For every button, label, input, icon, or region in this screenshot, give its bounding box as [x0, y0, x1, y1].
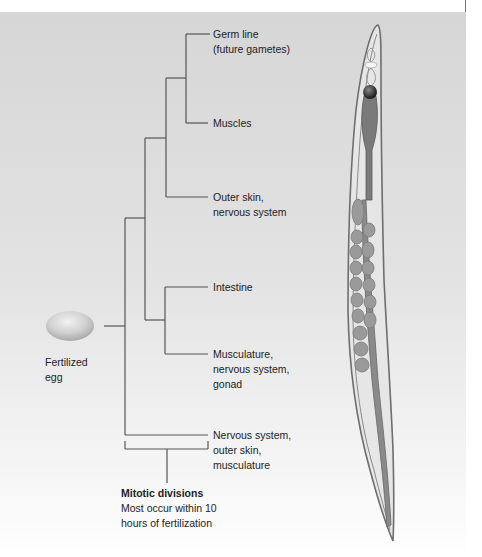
fertilized-egg-label: Fertilized egg [45, 355, 88, 385]
branch-label-line: outer skin, [213, 443, 291, 458]
caption-line: hours of fertilization [121, 516, 217, 531]
branch-label-line: musculature [213, 458, 291, 473]
branch-label-line: (future gametes) [213, 42, 290, 57]
lineage-tree-lines [104, 34, 210, 483]
branch-label-line: Intestine [213, 280, 253, 295]
caption-title: Mitotic divisions [121, 486, 217, 501]
fertilized-egg-icon [46, 311, 94, 341]
branch-label-line: Musculature, [213, 347, 289, 362]
nematode-worm-illustration [348, 25, 394, 541]
branch-label-intestine: Intestine [213, 280, 253, 295]
mitotic-divisions-caption: Mitotic divisions Most occur within 10 h… [121, 486, 217, 531]
branch-label-line: Nervous system, [213, 428, 291, 443]
egg-label-line-2: egg [45, 370, 88, 385]
branch-label-line: Outer skin, [213, 190, 287, 205]
egg-label-line-1: Fertilized [45, 355, 88, 370]
branch-label-muscles: Muscles [213, 116, 252, 131]
caption-line: Most occur within 10 [121, 501, 217, 516]
branch-label-line: nervous system, [213, 362, 289, 377]
branch-label-outer-skin: Outer skin, nervous system [213, 190, 287, 220]
pharynx-bulb-icon [363, 85, 377, 99]
branch-label-line: Germ line [213, 27, 290, 42]
branch-label-germ-line: Germ line (future gametes) [213, 27, 290, 57]
branch-label-line: gonad [213, 377, 289, 392]
branch-label-musculature: Musculature, nervous system, gonad [213, 347, 289, 392]
branch-label-nervous-system: Nervous system, outer skin, musculature [213, 428, 291, 473]
branch-label-line: nervous system [213, 205, 287, 220]
lineage-tree-diagram [0, 0, 482, 557]
branch-label-line: Muscles [213, 116, 252, 131]
